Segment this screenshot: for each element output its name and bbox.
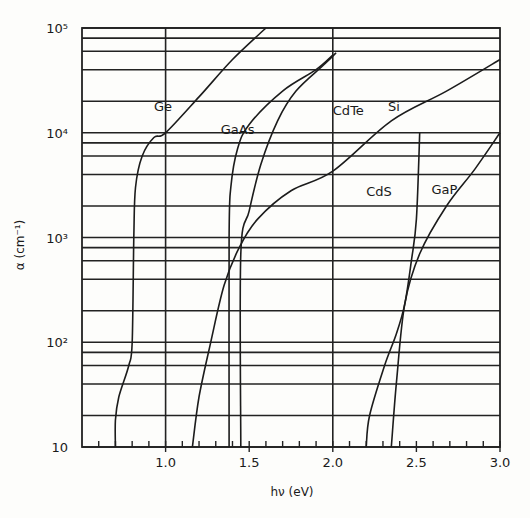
- curve-label-si: Si: [388, 99, 400, 114]
- curve-label-cdte: CdTe: [333, 103, 364, 118]
- x-tick-label: 1.0: [155, 455, 176, 470]
- curve-label-ge: Ge: [154, 99, 172, 114]
- curve-label-gaas: GaAs: [221, 122, 255, 137]
- x-axis-title: hν (eV): [270, 485, 313, 499]
- curve-cds: [366, 133, 420, 447]
- y-tick-label: 10⁵: [46, 21, 68, 36]
- y-tick-label: 10²: [46, 335, 68, 350]
- x-tick-label: 2.0: [322, 455, 343, 470]
- curve-cdte: [240, 53, 336, 447]
- gridlines: [82, 28, 500, 447]
- x-tick-label: 1.5: [239, 455, 260, 470]
- y-axis-title: α (cm⁻¹): [13, 220, 27, 271]
- y-tick-label: 10⁴: [46, 126, 68, 141]
- absorption-coefficient-chart: GeGaAsCdTeSiCdSGaP 1.01.52.02.53.01010²1…: [0, 0, 530, 518]
- curve-gap: [391, 133, 500, 447]
- y-tick-label: 10: [51, 440, 68, 455]
- x-tick-label: 3.0: [490, 455, 511, 470]
- y-tick-label: 10³: [46, 231, 68, 246]
- curve-label-cds: CdS: [366, 184, 392, 199]
- x-tick-label: 2.5: [406, 455, 427, 470]
- curve-label-gap: GaP: [431, 182, 457, 197]
- axis-tick-labels: 1.01.52.02.53.01010²10³10⁴10⁵: [46, 21, 510, 470]
